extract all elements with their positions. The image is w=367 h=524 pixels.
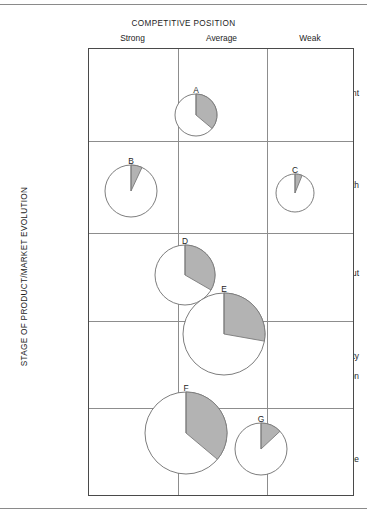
pie-label-f: F: [176, 383, 196, 393]
matrix-grid: ABCDEFG: [88, 48, 354, 496]
pie-label-c: C: [285, 165, 305, 175]
pie-marker-layer: [89, 49, 355, 497]
pie-label-b: B: [121, 156, 141, 166]
column-header-strong: Strong: [88, 33, 177, 43]
top-rule: [0, 4, 367, 5]
chart-title: COMPETITIVE POSITION: [0, 19, 367, 28]
pie-marker-a: [175, 94, 217, 136]
pie-label-d: D: [175, 236, 195, 246]
pie-marker-g: [235, 423, 287, 475]
bottom-rule: [0, 508, 367, 509]
pie-wedge: [224, 293, 265, 341]
pie-marker-e: [183, 293, 265, 375]
column-header-weak: Weak: [266, 33, 354, 43]
pie-label-e: E: [214, 284, 234, 294]
pie-marker-c: [276, 174, 314, 212]
pie-marker-d: [155, 245, 215, 305]
pie-marker-f: [145, 392, 227, 474]
pie-label-g: G: [251, 414, 271, 424]
pie-marker-b: [105, 165, 157, 217]
pie-label-a: A: [186, 85, 206, 95]
column-header-average: Average: [177, 33, 266, 43]
y-axis-title: STAGE OF PRODUCT/MARKET EVOLUTION: [20, 117, 29, 437]
